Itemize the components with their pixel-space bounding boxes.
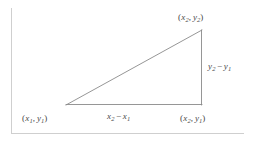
- first-subscript: 2: [111, 115, 114, 122]
- geometry-figure: (x2,y2) y2−y1 (x1,y1) x2−x1 (x2,y1): [0, 0, 253, 141]
- minus-operator: −: [114, 111, 122, 121]
- y-subscript: 1: [199, 117, 202, 124]
- triangle-hypotenuse: [66, 30, 202, 105]
- paren-close: ): [202, 113, 205, 123]
- x-subscript: 2: [185, 16, 188, 23]
- y-subscript: 1: [41, 117, 44, 124]
- vertical-leg-length-label: y2−y1: [208, 62, 231, 71]
- second-subscript: 1: [228, 65, 231, 72]
- vertex-label-bottom-right: (x2,y1): [180, 114, 206, 123]
- second-subscript: 1: [127, 115, 130, 122]
- y-subscript: 2: [197, 16, 200, 23]
- x-subscript: 2: [187, 117, 190, 124]
- first-subscript: 2: [212, 65, 215, 72]
- x-subscript: 1: [29, 117, 32, 124]
- vertex-label-top-right: (x2,y2): [178, 13, 204, 22]
- paren-close: ): [44, 113, 47, 123]
- minus-operator: −: [215, 61, 223, 71]
- vertex-label-bottom-left: (x1,y1): [22, 114, 48, 123]
- paren-close: ): [200, 12, 203, 22]
- horizontal-leg-length-label: x2−x1: [107, 112, 130, 121]
